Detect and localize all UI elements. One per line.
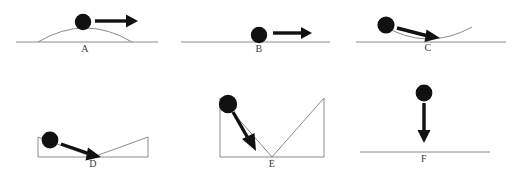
panel-b-ball [251, 27, 267, 43]
panel-c: C [356, 16, 506, 53]
panel-a: A [16, 14, 158, 54]
panel-c-arrow-head [425, 30, 441, 43]
panel-b: B [181, 27, 330, 54]
panel-b-arrow-head [301, 27, 312, 39]
panel-c-ball [377, 16, 394, 33]
panel-f: F [360, 85, 490, 165]
panel-d-label: D [89, 158, 96, 169]
panel-d-arrow-shaft [61, 144, 90, 154]
physics-figure: A B C D [0, 0, 522, 178]
panel-f-ball [416, 85, 433, 102]
panel-e-arrow-shaft [233, 112, 249, 140]
panel-e-label: E [269, 158, 275, 169]
panel-d: D [38, 132, 148, 170]
panel-a-arrow-head [126, 15, 138, 28]
panel-b-label: B [256, 43, 263, 54]
figure-canvas: A B C D [0, 0, 522, 178]
panel-c-label: C [425, 42, 432, 53]
panel-d-ball [42, 132, 59, 149]
panel-e: E [219, 95, 324, 169]
panel-f-arrow-head [418, 130, 431, 143]
panel-a-label: A [81, 43, 89, 54]
panel-a-ball [75, 14, 91, 30]
panel-a-hill-curve [38, 28, 132, 42]
panel-e-ball [219, 95, 237, 113]
panel-e-arrow-head [242, 133, 256, 151]
panel-f-label: F [421, 153, 427, 164]
